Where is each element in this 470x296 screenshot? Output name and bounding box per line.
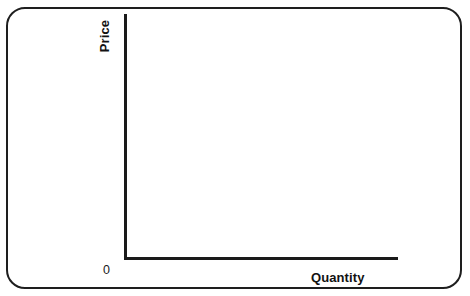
x-axis-label: Quantity xyxy=(311,270,365,285)
y-axis-line xyxy=(124,14,127,260)
plot-area xyxy=(127,14,398,257)
y-axis-label: Price xyxy=(97,20,112,52)
price-quantity-chart: Price Quantity 0 xyxy=(0,0,470,296)
x-axis-line xyxy=(124,257,398,260)
origin-label: 0 xyxy=(103,263,110,277)
